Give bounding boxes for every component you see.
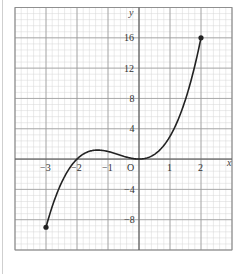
y-tick-label: 4 xyxy=(130,123,135,134)
x-tick-label: 1 xyxy=(167,162,172,173)
y-tick-label: −8 xyxy=(124,214,135,225)
function-graph: −3−2−112−8−4481216 x y O xyxy=(0,0,246,274)
x-tick-label: 2 xyxy=(198,162,203,173)
origin-label: O xyxy=(127,162,134,173)
y-tick-label: 8 xyxy=(130,93,135,104)
y-tick-label: −4 xyxy=(124,184,135,195)
y-tick-label: 16 xyxy=(124,32,134,43)
y-tick-label: 12 xyxy=(124,63,134,74)
endpoint-dot xyxy=(198,35,203,40)
x-axis-label: x xyxy=(226,157,232,168)
y-axis-label: y xyxy=(128,7,134,18)
x-tick-label: −3 xyxy=(40,162,51,173)
endpoint-dot xyxy=(43,225,48,230)
x-tick-label: −1 xyxy=(102,162,113,173)
